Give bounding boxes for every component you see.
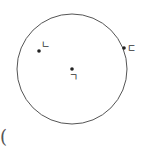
circle-diagram: ㄴ ㄷ ㄱ xyxy=(0,0,148,155)
label-g: ㄱ xyxy=(69,72,78,83)
point-g xyxy=(70,67,74,71)
answer-paren: ( xyxy=(0,128,7,146)
label-n: ㄴ xyxy=(41,39,50,50)
point-d xyxy=(122,46,126,50)
label-d: ㄷ xyxy=(127,43,136,54)
